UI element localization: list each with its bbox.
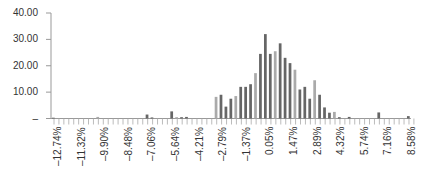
histogram-bar	[308, 99, 311, 119]
x-tick-label: –9.90%	[99, 127, 110, 161]
histogram-bar	[407, 116, 410, 118]
histogram-bar	[146, 115, 149, 119]
histogram-bar	[264, 34, 267, 118]
histogram-bar	[289, 63, 292, 118]
histogram-bar	[299, 89, 302, 118]
x-tick-label: –5.64%	[170, 127, 181, 161]
x-tick-label: 4.32%	[335, 127, 346, 155]
histogram-bar	[244, 87, 247, 119]
y-tick-label: 40.00	[0, 7, 38, 18]
histogram-bar	[220, 95, 223, 119]
histogram-bar	[318, 95, 321, 119]
histogram-bar	[180, 117, 183, 118]
x-tick-label: –4.21%	[194, 127, 205, 161]
y-tick-label: 30.00	[0, 33, 38, 44]
x-tick-label: 1.47%	[288, 127, 299, 155]
histogram-bar	[52, 118, 55, 119]
x-tick-label: –8.48%	[123, 127, 134, 161]
y-tick-label: 10.00	[0, 86, 38, 97]
histogram-bar	[279, 43, 282, 118]
histogram-bar	[313, 80, 316, 118]
histogram-bar	[274, 51, 277, 118]
histogram-bar	[269, 54, 272, 119]
histogram-bar	[259, 54, 262, 119]
histogram-bar	[225, 107, 228, 119]
x-tick-label: –12.74%	[52, 127, 63, 166]
histogram-bar	[96, 117, 99, 119]
histogram-bar	[229, 99, 232, 119]
x-tick-label: 7.16%	[382, 127, 393, 155]
x-tick-label: –2.79%	[217, 127, 228, 161]
histogram-bar	[185, 117, 188, 119]
histogram-bar	[328, 113, 331, 119]
x-tick-label: –11.32%	[76, 127, 87, 166]
x-tick-label: 0.05%	[264, 127, 275, 155]
histogram-bar	[303, 87, 306, 119]
histogram-bar	[348, 117, 351, 119]
histogram-bar	[254, 73, 257, 118]
x-tick-label: –1.37%	[241, 127, 252, 161]
histogram-bar	[333, 112, 336, 119]
histogram-bar	[323, 107, 326, 118]
x-tick-label: –7.06%	[146, 127, 157, 161]
histogram-bar	[151, 117, 154, 118]
histogram-bar	[215, 97, 218, 119]
x-tick-label: 8.58%	[406, 127, 417, 155]
histogram-bar	[234, 96, 237, 118]
y-tick-label: –	[0, 113, 38, 124]
x-tick-label: 2.89%	[312, 127, 323, 155]
histogram-bar	[239, 87, 242, 119]
histogram-bar	[249, 84, 252, 118]
x-tick-label: 5.74%	[359, 127, 370, 155]
y-tick-label: 20.00	[0, 60, 38, 71]
histogram-chart: 40.0030.0020.0010.00––12.74%–11.32%–9.90…	[0, 0, 425, 181]
histogram-bar	[338, 117, 341, 118]
histogram-bar	[377, 112, 380, 118]
histogram-bar	[175, 117, 178, 118]
histogram-bar	[284, 58, 287, 119]
histogram-bar	[294, 70, 297, 119]
histogram-bar	[170, 111, 173, 118]
